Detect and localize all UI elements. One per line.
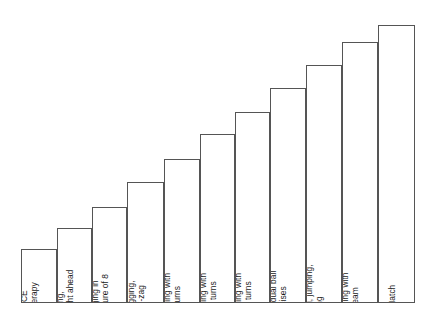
bar-category-label-line: Jogging with bbox=[235, 272, 242, 303]
bar-category-label-line: Jogging, bbox=[57, 269, 64, 303]
bar-label-holder: Jogging ina figure of 8 bbox=[93, 208, 126, 302]
bar-category-label-line: zig-zag bbox=[135, 280, 145, 303]
bar-category-label-line: a figure of 8 bbox=[99, 274, 109, 303]
bar-11[interactable]: Match bbox=[378, 25, 415, 303]
bar-label-holder: Training withthe team bbox=[343, 43, 377, 302]
bar-label-holder: Jogging,zig-zag bbox=[128, 183, 163, 302]
bar-category-label-line: straight ahead bbox=[64, 269, 74, 303]
bar-category-label-line: 180° turns bbox=[207, 272, 217, 303]
bar-label-holder: Jogging with90° turns bbox=[165, 160, 199, 302]
bar-category-label-line: Match bbox=[386, 284, 396, 303]
bar-1[interactable]: RICEtherapy bbox=[21, 249, 57, 303]
bar-4[interactable]: Jogging,zig-zag bbox=[127, 182, 164, 303]
bar-category-label-line: exercises bbox=[278, 270, 288, 303]
bar-category-label-line: sprinting bbox=[314, 264, 324, 303]
bar-category-label: Jogging with180° turns bbox=[200, 272, 218, 303]
bar-category-label-line: Jogging with bbox=[200, 272, 207, 303]
bar-category-label: Training withthe team bbox=[342, 272, 360, 303]
bar-label-holder: RICEtherapy bbox=[22, 250, 56, 302]
bar-category-label-line: Individual ball bbox=[270, 270, 278, 303]
bar-category-label: Match bbox=[386, 284, 396, 303]
bar-category-label-line: Jogging with bbox=[164, 272, 172, 303]
bar-label-holder: Jogging with360° turns bbox=[236, 113, 269, 302]
bar-label-holder: Match bbox=[379, 26, 414, 302]
bar-category-label-line: the team bbox=[350, 272, 360, 303]
bar-5[interactable]: Jogging with90° turns bbox=[164, 159, 200, 303]
bar-category-label: RICEtherapy bbox=[21, 282, 39, 303]
bar-category-label: Kicking, jumping,sprinting bbox=[306, 264, 324, 303]
bar-6[interactable]: Jogging with180° turns bbox=[200, 134, 235, 303]
bar-category-label-line: Jogging, bbox=[127, 280, 135, 303]
bar-2[interactable]: Jogging,straight ahead bbox=[57, 228, 92, 303]
bar-7[interactable]: Jogging with360° turns bbox=[235, 112, 270, 303]
bar-label-holder: Jogging with180° turns bbox=[201, 135, 234, 302]
bar-category-label-line: 90° turns bbox=[172, 272, 182, 303]
bar-3[interactable]: Jogging ina figure of 8 bbox=[92, 207, 127, 303]
bar-category-label: Jogging,straight ahead bbox=[57, 269, 75, 303]
bar-10[interactable]: Training withthe team bbox=[342, 42, 378, 303]
bar-category-label-line: Jogging in bbox=[92, 274, 99, 303]
bar-category-label: Individual ballexercises bbox=[270, 270, 288, 303]
bar-category-label-line: therapy bbox=[29, 282, 39, 303]
bar-category-label-line: Training with bbox=[342, 272, 350, 303]
bar-label-holder: Jogging,straight ahead bbox=[58, 229, 91, 302]
bar-category-label: Jogging with360° turns bbox=[235, 272, 253, 303]
bar-category-label-line: 360° turns bbox=[242, 272, 252, 303]
bar-label-holder: Individual ballexercises bbox=[271, 89, 305, 302]
bar-label-holder: Kicking, jumping,sprinting bbox=[307, 66, 341, 302]
bar-category-label-line: Kicking, jumping, bbox=[306, 264, 314, 303]
bar-category-label: Jogging ina figure of 8 bbox=[92, 274, 110, 303]
bar-category-label-line: RICE bbox=[21, 282, 29, 303]
bar-9[interactable]: Kicking, jumping,sprinting bbox=[306, 65, 342, 303]
bar-category-label: Jogging with90° turns bbox=[164, 272, 182, 303]
chart-figure: RICEtherapyJogging,straight aheadJogging… bbox=[0, 0, 433, 326]
bar-category-label: Jogging,zig-zag bbox=[127, 280, 146, 303]
bar-8[interactable]: Individual ballexercises bbox=[270, 88, 306, 303]
bar-chart-plot-area: RICEtherapyJogging,straight aheadJogging… bbox=[0, 0, 433, 326]
